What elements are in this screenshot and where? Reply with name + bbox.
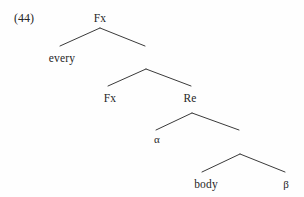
node-root-fx: Fx <box>94 13 106 25</box>
node-re: Re <box>183 93 196 105</box>
node-body: body <box>194 179 218 191</box>
node-every: every <box>49 53 75 65</box>
syntax-tree-figure: (44) Fx every Fx Re α body β <box>0 0 304 197</box>
tree-branch-l3-left <box>156 113 192 130</box>
tree-branch-l2-right <box>146 69 191 86</box>
tree-branch-l3-right <box>192 113 239 130</box>
tree-branch-root-left <box>60 28 100 46</box>
tree-branch-l4-left <box>202 154 240 172</box>
example-number-label: (44) <box>14 11 34 26</box>
tree-branch-l2-left <box>108 69 146 86</box>
node-beta: β <box>283 179 289 190</box>
node-alpha: α <box>154 134 160 145</box>
tree-branch-lines <box>0 0 304 197</box>
tree-branch-root-right <box>100 28 145 46</box>
tree-branch-l4-right <box>240 154 285 172</box>
node-fx-level2: Fx <box>104 93 116 105</box>
